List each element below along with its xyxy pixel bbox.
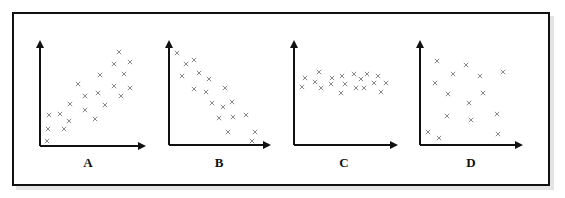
data-point-marker [226, 130, 230, 134]
data-point-marker [117, 50, 121, 54]
data-point-marker [230, 100, 234, 104]
data-point-marker [67, 119, 71, 123]
data-point-marker [329, 82, 333, 86]
data-point-marker [467, 101, 471, 105]
data-point-marker [103, 103, 107, 107]
data-point-marker [210, 101, 214, 105]
data-point-marker [481, 91, 485, 95]
data-point-marker [365, 72, 369, 76]
data-point-marker [175, 51, 179, 55]
plot-label-b: B [209, 155, 229, 171]
data-point-marker [384, 81, 388, 85]
data-point-marker [319, 86, 323, 90]
data-point-marker [354, 86, 358, 90]
data-point-marker [379, 90, 383, 94]
data-point-marker [372, 81, 376, 85]
data-point-marker [83, 94, 87, 98]
data-point-marker [317, 70, 321, 74]
data-point-marker [207, 77, 211, 81]
data-point-marker [340, 74, 344, 78]
data-point-marker [495, 112, 499, 116]
scatter-plot-c [290, 40, 398, 149]
data-point-marker [253, 130, 257, 134]
data-point-marker [192, 58, 196, 62]
plot-label-a: A [78, 155, 98, 171]
data-point-marker [184, 62, 188, 66]
data-point-marker [300, 85, 304, 89]
data-point-marker [244, 113, 248, 117]
data-point-marker [197, 71, 201, 75]
data-point-marker [343, 82, 347, 86]
data-point-marker [122, 72, 126, 76]
data-point-marker [68, 102, 72, 106]
data-point-marker [47, 113, 51, 117]
data-point-marker [437, 136, 441, 140]
x-axis-arrow-icon [138, 142, 146, 150]
data-point-marker [303, 76, 307, 80]
data-point-marker [76, 82, 80, 86]
y-axis-arrow-icon [36, 40, 44, 48]
scatter-plot-d [416, 40, 523, 149]
data-point-marker [426, 130, 430, 134]
data-point-marker [501, 70, 505, 74]
data-point-marker [46, 127, 50, 131]
data-point-marker [250, 139, 254, 143]
data-point-marker [451, 72, 455, 76]
data-point-marker [96, 91, 100, 95]
plot-label-c: C [334, 155, 354, 171]
data-point-marker [433, 81, 437, 85]
data-point-marker [223, 86, 227, 90]
data-point-marker [221, 105, 225, 109]
data-point-marker [119, 94, 123, 98]
y-axis-arrow-icon [416, 40, 424, 48]
data-point-marker [62, 127, 66, 131]
x-axis-arrow-icon [390, 141, 398, 149]
scatter-plot-a [36, 40, 146, 150]
data-point-marker [83, 108, 87, 112]
data-point-marker [231, 115, 235, 119]
x-axis-arrow-icon [263, 141, 271, 149]
data-point-marker [469, 118, 473, 122]
data-point-marker [128, 60, 132, 64]
plot-label-d: D [461, 155, 481, 171]
data-point-marker [478, 74, 482, 78]
data-point-marker [45, 139, 49, 143]
data-point-marker [128, 86, 132, 90]
data-point-marker [204, 90, 208, 94]
data-point-marker [217, 116, 221, 120]
data-point-marker [192, 87, 196, 91]
data-point-marker [496, 132, 500, 136]
data-point-marker [58, 112, 62, 116]
y-axis-arrow-icon [165, 40, 173, 48]
x-axis-arrow-icon [515, 141, 523, 149]
data-point-marker [330, 76, 334, 80]
data-point-marker [180, 74, 184, 78]
data-point-marker [446, 92, 450, 96]
data-point-marker [376, 74, 380, 78]
data-point-marker [464, 63, 468, 67]
data-point-marker [112, 62, 116, 66]
data-point-marker [435, 59, 439, 63]
data-point-marker [445, 114, 449, 118]
data-point-marker [339, 91, 343, 95]
scatter-plot-b [165, 40, 271, 149]
y-axis-arrow-icon [290, 40, 298, 48]
data-point-marker [93, 117, 97, 121]
data-point-marker [352, 72, 356, 76]
data-point-marker [112, 84, 116, 88]
data-point-marker [359, 77, 363, 81]
data-point-marker [313, 80, 317, 84]
data-point-marker [362, 86, 366, 90]
data-point-marker [98, 73, 102, 77]
